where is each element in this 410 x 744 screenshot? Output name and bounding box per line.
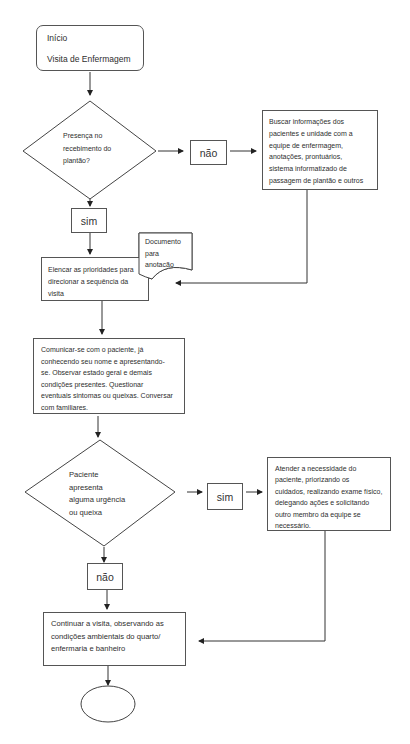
decision-urgency-text: Paciente apresenta alguma urgência ou qu… (69, 469, 125, 519)
answer-label: sim (81, 215, 97, 227)
prioritize-box: Elencar as prioridades para direcionar a… (41, 257, 149, 301)
decision-line: Paciente (69, 469, 125, 482)
box-line: Atender a necessidade do (275, 463, 383, 474)
decision-line: plantão? (63, 155, 111, 168)
answer-yes-urgency: sim (207, 483, 243, 510)
box-line: necessário. (275, 520, 383, 531)
answer-label: não (96, 571, 114, 583)
box-line: condições ambientais do quarto/ (51, 631, 178, 644)
box-line: se. Observar estado geral e demais (41, 367, 177, 379)
start-label: Início (47, 32, 67, 45)
box-line: enfermaria e banheiro (51, 643, 178, 656)
box-line: sistema informatizado de (269, 163, 371, 175)
answer-no-urgency: não (87, 563, 123, 590)
answer-no-presence: não (190, 140, 227, 165)
decision-presence-text: Presença no recebimento do plantão? (63, 130, 111, 168)
start-title: Visita de Enfermagem (47, 53, 130, 66)
decision-line: apresenta (69, 482, 125, 495)
answer-label: não (200, 147, 218, 159)
decision-line: alguma urgência (69, 494, 125, 507)
box-line: anotações, prontuários, (269, 151, 371, 163)
document-note: Documento para anotacão (145, 236, 181, 271)
end-terminal (81, 686, 135, 722)
box-line: conhecendo seu nome e apresentando- (41, 356, 177, 368)
answer-yes-presence: sim (71, 208, 107, 233)
box-line: delegando ações e solicitando (275, 497, 383, 508)
decision-line: ou queixa (69, 507, 125, 520)
box-line: condições presentes. Questionar (41, 379, 177, 391)
document-line: Documento (145, 236, 181, 248)
box-line: visita (48, 288, 142, 300)
decision-line: Presença no (63, 130, 111, 143)
box-line: com familiares. (41, 402, 177, 414)
box-line: direcionar a sequência da (48, 276, 142, 288)
decision-line: recebimento do (63, 143, 111, 156)
attend-need-box: Atender a necessidade do paciente, prior… (267, 457, 391, 531)
box-line: Comunicar-se com o paciente, já (41, 344, 177, 356)
box-line: paciente, priorizando os (275, 474, 383, 485)
box-line: pacientes e unidade com a (269, 128, 371, 140)
box-line: Elencar as prioridades para (48, 264, 142, 276)
box-line: outro membro da equipe se (275, 509, 383, 520)
search-info-box: Buscar informações dos pacientes e unida… (262, 110, 378, 190)
box-line: Continuar a visita, observando as (51, 618, 178, 631)
communicate-box: Comunicar-se com o paciente, já conhecen… (33, 338, 185, 414)
answer-label: sim (217, 491, 233, 503)
continue-visit-box: Continuar a visita, observando as condiç… (43, 612, 186, 666)
box-line: cuidados, realizando exame físico, (275, 486, 383, 497)
document-line: anotacão (145, 259, 181, 271)
document-line: para (145, 248, 181, 260)
box-line: passagem de plantão e outros (269, 175, 371, 187)
box-line: equipe de enfermagem, (269, 140, 371, 152)
box-line: Buscar informações dos (269, 116, 371, 128)
start-terminal: Início Visita de Enfermagem (36, 25, 144, 71)
box-line: eventuais sintomas ou queixas. Conversar (41, 390, 177, 402)
